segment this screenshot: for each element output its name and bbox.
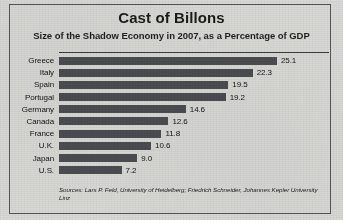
bar-track: 11.8 (59, 130, 343, 138)
chart-row: Canada12.6 (0, 117, 343, 129)
category-label: Canada (0, 117, 54, 126)
value-label: 14.6 (190, 105, 205, 114)
bar-track: 7.2 (59, 166, 343, 174)
value-label: 19.2 (230, 93, 245, 102)
category-label: Greece (0, 56, 54, 65)
category-label: Germany (0, 105, 54, 114)
category-label: Spain (0, 80, 54, 89)
bar (59, 105, 186, 113)
value-label: 9.0 (141, 154, 152, 163)
chart-row: Italy22.3 (0, 68, 343, 80)
bar (59, 154, 137, 162)
value-label: 11.8 (165, 129, 180, 138)
bar (59, 93, 226, 101)
chart-row: France11.8 (0, 129, 343, 141)
bar-chart-plot: Greece25.1Italy22.3Spain19.5Portugal19.2… (0, 56, 343, 178)
category-label: Japan (0, 154, 54, 163)
value-label: 19.5 (232, 80, 247, 89)
bar-track: 22.3 (59, 69, 343, 77)
plot-top-rule (59, 52, 329, 53)
bar (59, 69, 253, 77)
bar (59, 142, 151, 150)
chart-row: Germany14.6 (0, 105, 343, 117)
value-label: 7.2 (126, 166, 137, 175)
category-label: Portugal (0, 93, 54, 102)
bar (59, 57, 277, 65)
bar-track: 19.5 (59, 81, 343, 89)
bar (59, 117, 168, 125)
bar-track: 12.6 (59, 117, 343, 125)
category-label: France (0, 129, 54, 138)
chart-row: U.S.7.2 (0, 166, 343, 178)
bar (59, 130, 161, 138)
bar (59, 81, 228, 89)
chart-screenshot: Cast of Billons Size of the Shadow Econo… (0, 0, 343, 220)
chart-subtitle: Size of the Shadow Economy in 2007, as a… (0, 30, 343, 41)
category-label: U.S. (0, 166, 54, 175)
bar-track: 9.0 (59, 154, 343, 162)
chart-row: U.K.10.6 (0, 141, 343, 153)
value-label: 22.3 (257, 68, 272, 77)
chart-row: Greece25.1 (0, 56, 343, 68)
bar-track: 14.6 (59, 105, 343, 113)
chart-row: Japan9.0 (0, 154, 343, 166)
bar-track: 10.6 (59, 142, 343, 150)
chart-row: Portugal19.2 (0, 93, 343, 105)
value-label: 12.6 (172, 117, 187, 126)
bar-track: 19.2 (59, 93, 343, 101)
chart-row: Spain19.5 (0, 80, 343, 92)
chart-source: Sources: Lars P. Feld, University of Hei… (59, 186, 327, 202)
value-label: 10.6 (155, 141, 170, 150)
bar (59, 166, 122, 174)
chart-title: Cast of Billons (0, 9, 343, 26)
value-label: 25.1 (281, 56, 296, 65)
bar-track: 25.1 (59, 57, 343, 65)
category-label: U.K. (0, 141, 54, 150)
category-label: Italy (0, 68, 54, 77)
